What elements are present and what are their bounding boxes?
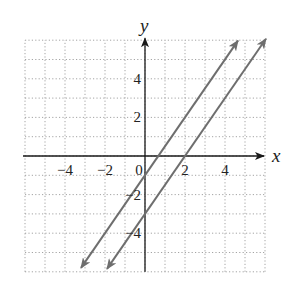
y-axis-label: y bbox=[138, 15, 149, 36]
x-tick-label: 0 bbox=[135, 162, 143, 178]
y-tick-label: −2 bbox=[125, 187, 141, 203]
x-tick-label: 4 bbox=[221, 162, 229, 178]
y-tick-label: 2 bbox=[134, 109, 142, 125]
y-tick-label: 4 bbox=[134, 71, 142, 87]
series-line-1 bbox=[81, 41, 238, 268]
y-tick-label: −4 bbox=[125, 225, 141, 241]
axes bbox=[23, 38, 264, 272]
x-tick-label: −4 bbox=[57, 162, 73, 178]
x-tick-label: 2 bbox=[181, 162, 189, 178]
x-tick-label: −2 bbox=[97, 162, 113, 178]
series-group bbox=[81, 39, 266, 269]
x-axis-label: x bbox=[271, 145, 281, 166]
coordinate-plane: −4−202442−2−4 x y bbox=[0, 0, 303, 289]
